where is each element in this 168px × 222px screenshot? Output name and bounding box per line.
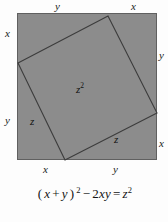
equation-open-paren: ( bbox=[36, 186, 45, 201]
equation-equals-operator: = bbox=[111, 186, 123, 201]
equation-plus-operator: + bbox=[50, 186, 62, 201]
label-inner-area-exponent: 2 bbox=[80, 81, 84, 90]
label-left-segment-x: x bbox=[5, 28, 10, 39]
label-right-segment-x: x bbox=[159, 138, 164, 149]
equation-var-y: y bbox=[62, 186, 68, 201]
label-bottom-segment-x: x bbox=[43, 164, 48, 175]
label-inner-edge-left-z: z bbox=[30, 116, 34, 127]
label-top-segment-y: y bbox=[55, 1, 60, 12]
equation-var-xy: xy bbox=[99, 186, 111, 201]
outer-square-shape bbox=[18, 14, 157, 160]
label-inner-area-z-squared: z2 bbox=[76, 84, 84, 95]
label-right-segment-y: y bbox=[159, 50, 164, 61]
equation-expression: (x+y)2−2xy=z2 bbox=[36, 186, 133, 202]
equation-exponent-second: 2 bbox=[128, 185, 132, 195]
diagram-area: y x x y y x x y z2 z z bbox=[0, 0, 168, 178]
equation-minus-operator: − bbox=[81, 186, 93, 201]
label-left-segment-y: y bbox=[5, 115, 10, 126]
label-bottom-segment-y: y bbox=[113, 164, 118, 175]
label-top-segment-x: x bbox=[131, 1, 136, 12]
figure-root: y x x y y x x y z2 z z (x+y)2−2xy=z2 bbox=[0, 0, 168, 222]
equation-caption: (x+y)2−2xy=z2 bbox=[0, 186, 168, 202]
label-inner-edge-right-z: z bbox=[114, 134, 118, 145]
